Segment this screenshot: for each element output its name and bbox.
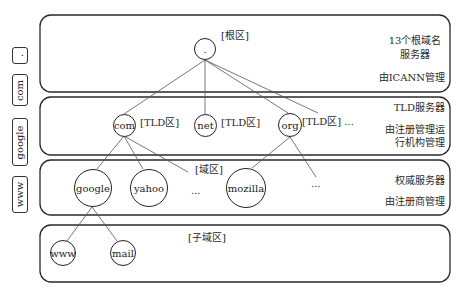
tld-zone-label-com: [TLD区]	[140, 117, 179, 129]
tld-manager-line-2: 行机构管理	[395, 137, 445, 149]
tree-edges	[67, 60, 318, 241]
side-label-root: .	[12, 47, 28, 64]
tld-zone-label-net: [TLD区]	[221, 117, 260, 129]
subdomain-layer-box	[40, 225, 450, 282]
root-node: .	[194, 38, 216, 60]
root-description-line-1: 13个根域名	[380, 35, 450, 47]
tld-description: TLD服务器	[394, 102, 445, 114]
tld-manager-line-1: 由注册管理运	[385, 124, 445, 136]
domain-node-yahoo: yahoo	[130, 169, 168, 207]
root-manager: 由ICANN管理	[379, 72, 445, 84]
domain-node-mozilla: mozilla	[226, 168, 266, 208]
tld-node-com: com	[113, 114, 136, 137]
domain-ellipsis-2: ...	[311, 178, 321, 190]
root-zone-label: [根区]	[221, 30, 249, 42]
side-label-com: com	[12, 74, 28, 106]
subdomain-zone-label: [子域区]	[188, 232, 226, 244]
subdomain-node-mail: mail	[110, 240, 136, 266]
tld-node-org: org	[278, 113, 302, 137]
side-label-www: www	[12, 176, 28, 213]
tld-node-net: net	[194, 114, 217, 137]
subdomain-node-www: www	[50, 240, 76, 266]
authoritative-description: 权威服务器	[395, 175, 445, 187]
side-label-google: google	[12, 118, 28, 166]
authoritative-manager: 由注册商管理	[385, 196, 445, 208]
domain-node-google: google	[74, 169, 112, 207]
tld-zone-label-org: [TLD区] ...	[302, 116, 354, 128]
domain-zone-label: [域区]	[195, 164, 223, 176]
root-description-line-2: 服务器	[380, 49, 450, 61]
domain-ellipsis-1: ...	[191, 185, 201, 197]
